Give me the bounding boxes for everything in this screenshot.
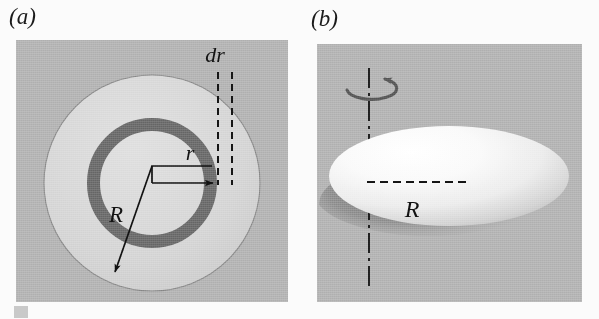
rotating-disk-body: [329, 126, 569, 226]
panel-b-label: (b): [311, 6, 338, 32]
panel-a-box: dr r R: [16, 40, 288, 302]
bottom-crop-artifact: [14, 306, 28, 318]
panel-a-label: (a): [9, 4, 36, 30]
R-label: R: [108, 202, 123, 227]
figure-root: (a): [0, 0, 599, 319]
panel-a-graphic: dr r R: [16, 40, 288, 302]
panel-b-graphic: R: [317, 44, 582, 302]
dr-label: dr: [205, 42, 225, 67]
panel-b-box: R: [317, 44, 582, 302]
r-label: r: [186, 140, 195, 165]
R-label: R: [404, 196, 420, 222]
